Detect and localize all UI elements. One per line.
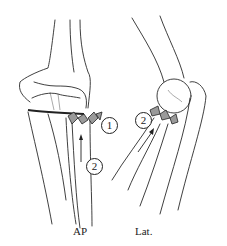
lat-fracture-fragments (150, 106, 178, 124)
callout-1-ap: 1 (101, 117, 118, 134)
callout-2-lat: 2 (135, 112, 152, 129)
ap-fracture-fragments (68, 112, 102, 124)
lat-arrow (138, 128, 154, 152)
lat-view-bones (112, 16, 206, 214)
callout-2-ap: 2 (86, 158, 103, 175)
figure: 1 2 2 AP Lat. (0, 0, 227, 246)
label-ap: AP (73, 225, 87, 237)
label-lat: Lat. (135, 225, 152, 237)
ap-arrow (79, 134, 83, 162)
ap-view-bones (19, 20, 92, 228)
